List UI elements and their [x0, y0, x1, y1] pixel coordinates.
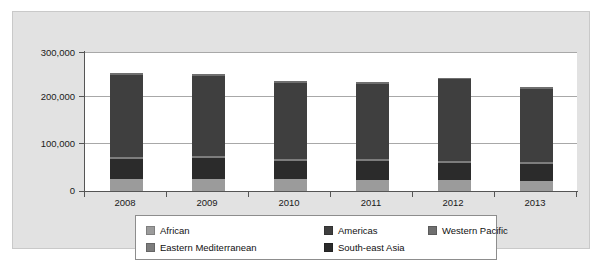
legend-item-label: South-east Asia — [338, 242, 405, 253]
x-axis-label-2009: 2009 — [177, 197, 237, 208]
x-axis-line — [84, 191, 578, 192]
bar-2010 — [274, 81, 307, 191]
gridline-100000 — [85, 143, 577, 144]
bar-segment-south-east-asia — [274, 161, 307, 180]
y-axis-tick-label: 100,000 — [41, 138, 75, 149]
legend-swatch-icon — [324, 243, 333, 252]
x-axis-tick-mark — [166, 192, 167, 197]
bar-segment-south-east-asia — [438, 163, 471, 181]
legend-item-label: Western Pacific — [442, 225, 508, 236]
bar-segment-south-east-asia — [356, 161, 389, 180]
legend-swatch-icon — [428, 226, 437, 235]
bar-segment-americas — [356, 84, 389, 160]
gridline-200000 — [85, 96, 577, 97]
chart-panel: 300,000 200,000 100,000 0 20082009201020… — [12, 11, 590, 249]
x-axis-label-2008: 2008 — [95, 197, 155, 208]
chart-figure: 300,000 200,000 100,000 0 20082009201020… — [0, 0, 607, 262]
x-axis-label-2013: 2013 — [505, 197, 565, 208]
bar-2013 — [520, 87, 553, 191]
bar-2012 — [438, 78, 471, 191]
gridline-300000 — [85, 52, 577, 53]
bar-segment-south-east-asia — [192, 158, 225, 179]
legend-item-label: Americas — [338, 225, 378, 236]
legend-item-americas[interactable]: Americas — [324, 225, 378, 236]
x-axis-tick-mark — [248, 192, 249, 197]
bar-2009 — [192, 74, 225, 191]
bar-2008 — [110, 73, 143, 191]
bar-segment-americas — [110, 75, 143, 157]
legend-swatch-icon — [146, 226, 155, 235]
bar-segment-south-east-asia — [110, 159, 143, 179]
bar-segment-south-east-asia — [520, 164, 553, 181]
x-axis-tick-mark — [494, 192, 495, 197]
bar-segment-african — [192, 179, 225, 191]
x-axis-tick-mark — [330, 192, 331, 197]
x-axis-label-2010: 2010 — [259, 197, 319, 208]
y-axis-line — [84, 51, 85, 192]
legend-item-south-east-asia[interactable]: South-east Asia — [324, 242, 405, 253]
x-axis-tick-mark — [412, 192, 413, 197]
bar-segment-americas — [274, 83, 307, 159]
legend-swatch-icon — [324, 226, 333, 235]
bar-segment-americas — [192, 76, 225, 157]
bar-2011 — [356, 82, 389, 191]
plot-area — [85, 52, 577, 191]
bar-segment-african — [520, 181, 553, 191]
bar-segment-americas — [438, 79, 471, 161]
bar-segment-african — [438, 180, 471, 191]
y-axis-tick-label: 0 — [70, 185, 75, 196]
x-axis-tick-mark — [84, 192, 85, 197]
x-axis-tick-mark — [576, 192, 577, 197]
bar-segment-americas — [520, 89, 553, 163]
x-axis-label-2011: 2011 — [341, 197, 401, 208]
bar-segment-african — [274, 179, 307, 191]
y-axis-tick-label: 200,000 — [41, 91, 75, 102]
legend-swatch-icon — [146, 243, 155, 252]
legend-item-label: Eastern Mediterranean — [160, 242, 257, 253]
bar-segment-african — [110, 179, 143, 191]
legend-item-western-pacific[interactable]: Western Pacific — [428, 225, 508, 236]
legend-item-eastern-mediterranean[interactable]: Eastern Mediterranean — [146, 242, 257, 253]
x-axis-label-2012: 2012 — [423, 197, 483, 208]
legend-item-label: African — [160, 225, 190, 236]
y-axis-tick-label: 300,000 — [41, 47, 75, 58]
bar-segment-african — [356, 180, 389, 191]
chart-legend: AfricanAmericasWestern PacificEastern Me… — [135, 215, 497, 260]
legend-item-african[interactable]: African — [146, 225, 190, 236]
